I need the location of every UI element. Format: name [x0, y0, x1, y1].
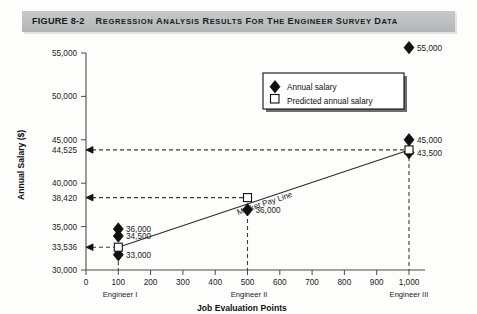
grade-label-engineer-2: Engineer II: [231, 290, 268, 299]
data-point-label: 33,000: [126, 251, 151, 260]
xtick-label-600: 600: [273, 278, 287, 287]
ytick-label-50000: 50,000: [52, 92, 77, 101]
chart-legend: Annual salary Predicted annual salary: [263, 73, 407, 112]
ytick-label-35000: 35,000: [52, 223, 77, 232]
legend-marker-square: [271, 95, 280, 104]
xtick-label-500: 500: [241, 278, 255, 287]
data-point-label: 36,000: [256, 206, 281, 215]
data-point-label: 45,000: [417, 136, 442, 145]
ytick-label-44525: 44,525: [52, 146, 77, 155]
ytick-label-40000: 40,000: [52, 179, 77, 188]
y-axis-ticks: [81, 53, 86, 270]
data-point-label: 43,500: [417, 149, 442, 158]
predicted-point-square[interactable]: [114, 243, 122, 251]
figure-caption-bar: FIGURE 8-2 REGRESSION ANALYSIS RESULTS F…: [22, 11, 455, 32]
xtick-label-900: 900: [370, 278, 384, 287]
ytick-label-55000: 55,000: [52, 49, 77, 58]
legend-label-predicted-annual-salary: Predicted annual salary: [287, 97, 373, 106]
ytick-label-33536: 33,536: [52, 243, 77, 252]
figure-title: REGRESSION ANALYSIS RESULTS FOR THE ENGI…: [96, 17, 398, 26]
x-axis-ticks: [86, 270, 409, 275]
xtick-label-0: 0: [84, 278, 89, 287]
data-point-label: 34,500: [126, 232, 151, 241]
xtick-label-700: 700: [305, 278, 319, 287]
ytick-label-38420: 38,420: [52, 194, 77, 203]
ytick-label-45000: 45,000: [52, 136, 77, 145]
figure-number: FIGURE 8-2: [32, 16, 85, 26]
figure-page: FIGURE 8-2 REGRESSION ANALYSIS RESULTS F…: [0, 0, 477, 314]
ytick-label-30000: 30,000: [52, 266, 77, 275]
xtick-label-800: 800: [338, 278, 352, 287]
data-point-diamond[interactable]: [404, 134, 414, 146]
arrowhead-44525: [86, 147, 93, 154]
chart-plot-area: 55,000 50,000 45,000 44,525 40,000 38,42…: [0, 32, 477, 314]
data-point-diamond[interactable]: [404, 41, 414, 53]
xtick-label-100: 100: [111, 278, 125, 287]
x-axis-tick-labels: 0 100 200 300 400 500 600 700 800 900 1,…: [84, 278, 420, 287]
xtick-label-400: 400: [208, 278, 222, 287]
xtick-label-1000: 1,000: [399, 278, 420, 287]
arrowhead-38420: [86, 194, 93, 201]
legend-label-annual-salary: Annual salary: [287, 83, 338, 92]
grade-label-engineer-3: Engineer III: [390, 290, 429, 299]
predicted-point-square[interactable]: [405, 146, 413, 154]
x-axis-title: Job Evaluation Points: [197, 303, 287, 313]
data-point-label: 55,000: [417, 44, 442, 53]
xtick-label-300: 300: [176, 278, 190, 287]
data-point-diamond[interactable]: [113, 230, 123, 242]
x-axis-grade-labels: Engineer I Engineer II Engineer III: [103, 290, 429, 299]
arrowhead-33536: [86, 244, 93, 251]
predicted-point-square[interactable]: [244, 194, 252, 202]
y-axis-tick-labels: 55,000 50,000 45,000 44,525 40,000 38,42…: [52, 49, 77, 275]
figure-caption-text: FIGURE 8-2 REGRESSION ANALYSIS RESULTS F…: [32, 11, 398, 32]
grade-label-engineer-1: Engineer I: [103, 290, 138, 299]
y-axis-title: Annual Salary ($): [16, 130, 26, 200]
xtick-label-200: 200: [144, 278, 158, 287]
